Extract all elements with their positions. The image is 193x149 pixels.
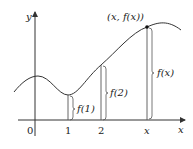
function-curve — [14, 23, 181, 95]
brace-f1 — [70, 96, 75, 120]
brace-f2 — [103, 66, 108, 120]
tick-label-1: 1 — [65, 125, 71, 136]
function-graph: y x 0 1 2 x (x, f(x)) f(1) f(2) f(x) — [0, 0, 193, 149]
height-label-fx: f(x) — [156, 67, 174, 78]
x-axis-label: x — [178, 124, 184, 135]
tick-label-x: x — [144, 125, 150, 136]
origin-label: 0 — [27, 125, 33, 136]
height-label-f1: f(1) — [76, 103, 95, 114]
point-label: (x, f(x)) — [107, 11, 144, 22]
tick-label-2: 2 — [98, 125, 104, 136]
y-axis-label: y — [25, 11, 32, 22]
height-label-f2: f(2) — [109, 87, 128, 98]
point-marker — [145, 25, 149, 29]
brace-fx — [149, 28, 154, 119]
